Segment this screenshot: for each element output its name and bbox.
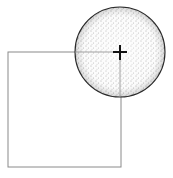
diagram-canvas — [0, 0, 173, 178]
